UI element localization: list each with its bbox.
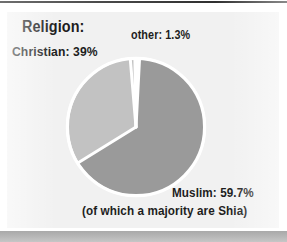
bottom-band [0,231,287,242]
slice-label-christian: Christian: 39% [12,44,98,59]
slice-label-muslim: Muslim: 59.7% [172,185,254,200]
top-divider-rule [0,1,287,3]
chart-title: Religion: [22,18,84,36]
slice-note-muslim-shia: (of which a majority are Shia) [82,203,247,218]
slice-label-other: other: 1.3% [131,28,190,42]
figure-root: Religion: Christian: 39% other: 1.3% Mus… [0,0,287,242]
pie-chart-svg [64,55,208,199]
pie-chart [64,55,208,199]
